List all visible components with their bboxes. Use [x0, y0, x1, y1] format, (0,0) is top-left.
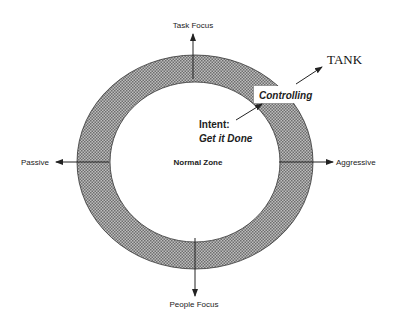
tank-arrow — [296, 67, 322, 84]
task-focus-label: Task Focus — [173, 21, 213, 30]
controlling-label: Controlling — [259, 90, 312, 101]
tank-diagram: Task Focus People Focus Passive Aggressi… — [0, 0, 404, 325]
aggressive-label: Aggressive — [336, 158, 376, 167]
tank-label: TANK — [327, 52, 363, 67]
people-focus-label: People Focus — [170, 300, 219, 309]
normal-zone-label: Normal Zone — [174, 158, 223, 167]
intent-value: Get it Done — [199, 133, 253, 144]
intent-label: Intent: — [199, 119, 230, 130]
passive-label: Passive — [21, 158, 50, 167]
intent-arrow — [236, 104, 262, 120]
